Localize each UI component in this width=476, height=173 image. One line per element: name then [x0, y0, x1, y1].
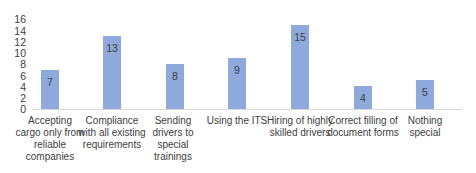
y-tick-label: 2 [0, 93, 26, 103]
data-label: 4 [348, 92, 378, 104]
x-category-label: Sending drivers to special trainings [140, 115, 206, 163]
data-label: 15 [285, 31, 315, 43]
y-tick-label: 12 [0, 37, 26, 47]
x-category-label: Using the ITS [200, 115, 274, 127]
data-label: 5 [410, 86, 440, 98]
y-tick-label: 0 [0, 104, 26, 114]
x-category-label: Nothing special [397, 115, 453, 139]
data-label: 8 [160, 70, 190, 82]
y-tick-label: 14 [0, 26, 26, 36]
y-tick-label: 6 [0, 71, 26, 81]
y-tick-label: 8 [0, 59, 26, 69]
x-category-label: Correct filling of document forms [325, 115, 401, 139]
data-label: 9 [222, 64, 252, 76]
data-label: 7 [35, 76, 65, 88]
x-axis-line [33, 109, 462, 110]
x-category-label: Compliance with all existing requirement… [77, 115, 147, 151]
bar-chart: 0 2 4 6 8 10 12 14 16 7 13 8 9 15 4 5 Ac… [0, 0, 476, 173]
y-tick-label: 4 [0, 82, 26, 92]
x-category-label: Accepting cargo only from reliable compa… [15, 115, 85, 163]
y-tick-label: 16 [0, 14, 26, 24]
data-label: 13 [97, 42, 127, 54]
y-tick-label: 10 [0, 48, 26, 58]
